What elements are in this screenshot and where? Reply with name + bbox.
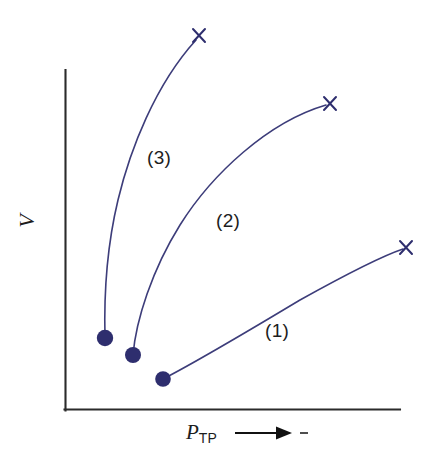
x-axis-label-subscript: TP [199,430,217,446]
curve-3-label: (3) [147,147,171,169]
x-axis-direction-arrow-icon [235,427,292,440]
curve-3-end-marker [193,29,205,42]
curve-1-path [163,249,403,379]
x-axis-label: PTP [186,420,217,446]
curve-1-start-marker [155,371,171,387]
curve-1-label: (1) [265,320,289,342]
curve-2-end-marker [324,97,336,110]
curve-2-label: (2) [216,210,240,232]
figure-canvas: V PTP (3) (2) (1) [0,0,428,464]
y-axis-label: V [14,198,40,244]
curve-2-start-marker [125,347,141,363]
curve-3-start-marker [97,330,113,346]
plot-area [0,0,428,464]
x-axis-label-symbol: P [186,420,199,444]
curve-1-end-marker [400,241,412,254]
curve-3-path [105,40,196,338]
